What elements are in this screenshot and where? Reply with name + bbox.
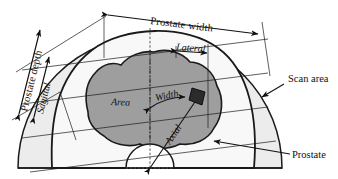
prostate-width-dimension: Prostate width xyxy=(108,15,258,34)
prostate-scan-diagram: Prostate width Prostate depth Sagittal L… xyxy=(0,0,338,179)
diagram-canvas: Prostate width Prostate depth Sagittal L… xyxy=(0,0,338,179)
scan-area-label: Scan area xyxy=(288,73,329,84)
prostate-label: Prostate xyxy=(292,149,326,160)
scan-area-callout: Scan area xyxy=(262,73,329,97)
lateral-dimension: Lateral xyxy=(175,41,207,54)
area-label: Area xyxy=(110,96,130,108)
lateral-label: Lateral xyxy=(175,41,206,54)
scan-area-leader-line xyxy=(262,84,284,97)
ext-line-width-right xyxy=(262,22,270,76)
